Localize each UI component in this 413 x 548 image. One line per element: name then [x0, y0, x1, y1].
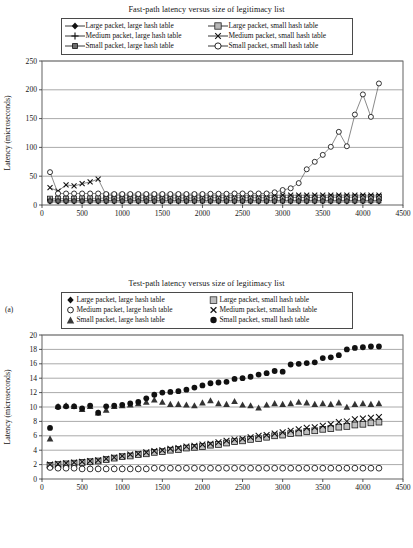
svg-text:4500: 4500: [395, 209, 410, 218]
svg-text:3000: 3000: [275, 483, 290, 492]
svg-text:1000: 1000: [115, 483, 130, 492]
svg-text:500: 500: [76, 483, 88, 492]
svg-text:0: 0: [40, 483, 44, 492]
square-grey-line-icon: [208, 21, 228, 31]
legend-label: Small packet, small hash table: [220, 315, 310, 325]
svg-text:100: 100: [26, 143, 38, 152]
panel-a-plot: 0501001502002500500100015002000250030003…: [0, 55, 413, 227]
svg-text:2000: 2000: [195, 483, 210, 492]
svg-text:3500: 3500: [315, 483, 330, 492]
svg-text:4500: 4500: [395, 483, 410, 492]
legend-item-large-large-a: Large packet, large hash table: [65, 21, 206, 31]
panel-b-legend: Large packet, large hash table Large pac…: [61, 292, 353, 329]
legend-item-medium-small-a: Medium packet, small hash table: [208, 31, 349, 41]
plus-line-icon: [65, 31, 85, 41]
legend-item-small-small-a: Small packet, small hash table: [208, 41, 349, 51]
legend-item-large-large-b: Large packet, large hash table: [65, 295, 206, 305]
svg-text:4000: 4000: [355, 483, 370, 492]
svg-text:250: 250: [26, 57, 38, 66]
figure-container: Fast-path latency versus size of legitim…: [0, 0, 413, 548]
legend-label: Small packet, large hash table: [86, 41, 174, 51]
svg-text:50: 50: [29, 172, 37, 181]
legend-label: Large packet, small hash table: [229, 21, 319, 31]
svg-text:3000: 3000: [275, 209, 290, 218]
panel-a-title: Fast-path latency versus size of legitim…: [0, 0, 413, 14]
legend-item-large-small-b: Large packet, small hash table: [208, 295, 349, 305]
svg-text:18: 18: [29, 345, 37, 354]
legend-item-large-small-a: Large packet, small hash table: [208, 21, 349, 31]
diamond-filled-icon: [65, 295, 76, 305]
svg-text:12: 12: [29, 388, 37, 397]
panel-b-test-path: Test-path latency versus size of legitim…: [0, 274, 413, 548]
svg-text:4: 4: [33, 446, 37, 455]
svg-text:10: 10: [29, 403, 37, 412]
panel-b-plot: 0246810121416182005001000150020002500300…: [0, 329, 413, 501]
legend-label: Large packet, large hash table: [77, 295, 165, 305]
cross-icon: [208, 305, 219, 315]
svg-text:14: 14: [29, 374, 37, 383]
svg-text:1000: 1000: [115, 209, 130, 218]
legend-label: Medium packet, small hash table: [229, 31, 327, 41]
svg-text:2500: 2500: [235, 209, 250, 218]
square-small-line-icon: [65, 41, 85, 51]
legend-label: Large packet, large hash table: [86, 21, 174, 31]
svg-text:8: 8: [33, 417, 37, 426]
legend-label: Small packet, large hash table: [77, 315, 165, 325]
svg-text:16: 16: [29, 359, 37, 368]
circle-open-icon: [65, 305, 76, 315]
legend-item-medium-small-b: Medium packet, small hash table: [208, 305, 349, 315]
svg-text:2500: 2500: [235, 483, 250, 492]
svg-text:500: 500: [76, 209, 88, 218]
panel-a-fast-path: Fast-path latency versus size of legitim…: [0, 0, 413, 272]
svg-text:3500: 3500: [315, 209, 330, 218]
svg-text:20: 20: [29, 331, 37, 340]
legend-item-medium-large-b: Medium packet, large hash table: [65, 305, 206, 315]
svg-text:2000: 2000: [195, 209, 210, 218]
svg-text:Latency (microseconds): Latency (microseconds): [3, 95, 12, 171]
legend-label: Medium packet, large hash table: [86, 31, 182, 41]
legend-label: Large packet, small hash table: [220, 295, 310, 305]
svg-text:200: 200: [26, 85, 38, 94]
panel-a-legend: Large packet, large hash table Large pac…: [61, 18, 353, 55]
svg-text:1500: 1500: [155, 483, 170, 492]
panel-b-title: Test-path latency versus size of legitim…: [0, 274, 413, 288]
svg-text:0: 0: [40, 209, 44, 218]
legend-item-small-small-b: Small packet, small hash table: [208, 315, 349, 325]
svg-text:0: 0: [33, 201, 37, 210]
legend-label: Medium packet, large hash table: [77, 305, 173, 315]
diamond-filled-line-icon: [65, 21, 85, 31]
svg-text:4000: 4000: [355, 209, 370, 218]
legend-item-medium-large-a: Medium packet, large hash table: [65, 31, 206, 41]
legend-item-small-large-b: Small packet, large hash table: [65, 315, 206, 325]
cross-line-icon: [208, 31, 228, 41]
square-grey-icon: [208, 295, 219, 305]
svg-text:1500: 1500: [155, 209, 170, 218]
circle-open-line-icon: [208, 41, 228, 51]
svg-text:2: 2: [33, 460, 37, 469]
svg-text:Latency (microseconds): Latency (microseconds): [3, 369, 12, 445]
circle-filled-icon: [208, 315, 219, 325]
triangle-filled-icon: [65, 315, 76, 325]
svg-text:0: 0: [33, 475, 37, 484]
legend-label: Medium packet, small hash table: [220, 305, 318, 315]
svg-text:150: 150: [26, 114, 38, 123]
svg-text:6: 6: [33, 431, 37, 440]
legend-item-small-large-a: Small packet, large hash table: [65, 41, 206, 51]
legend-label: Small packet, small hash table: [229, 41, 319, 51]
